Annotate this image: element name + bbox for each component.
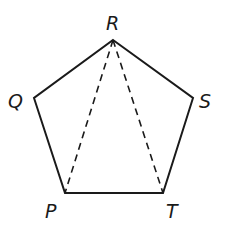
pentagon-diagram: R Q S P T bbox=[0, 0, 226, 230]
pentagon-svg: R Q S P T bbox=[0, 0, 226, 230]
diagonal-rt bbox=[113, 40, 163, 193]
vertex-label-p: P bbox=[45, 200, 57, 222]
vertex-label-s: S bbox=[199, 90, 211, 112]
vertex-label-t: T bbox=[166, 200, 179, 222]
vertex-label-r: R bbox=[106, 12, 119, 34]
diagonal-rp bbox=[65, 40, 113, 193]
pentagon-outline bbox=[34, 40, 193, 193]
vertex-label-q: Q bbox=[8, 90, 23, 112]
